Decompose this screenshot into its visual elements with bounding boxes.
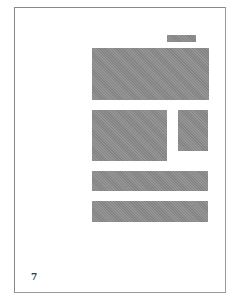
bar-placeholder-1 — [92, 171, 208, 191]
middle-right-image-placeholder — [178, 110, 208, 151]
middle-left-image-placeholder — [92, 110, 167, 161]
page-number: 7 — [31, 272, 37, 282]
header-tag-placeholder — [167, 35, 196, 42]
bar-placeholder-2 — [92, 201, 208, 222]
top-image-placeholder — [92, 48, 209, 100]
